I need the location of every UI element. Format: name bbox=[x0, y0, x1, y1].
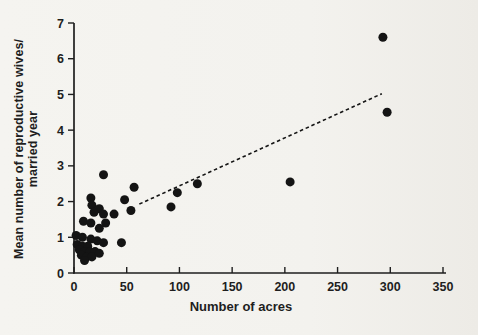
data-point bbox=[193, 179, 202, 188]
data-point bbox=[120, 195, 129, 204]
x-tick-label: 350 bbox=[433, 280, 454, 294]
y-tick-label: 5 bbox=[57, 88, 64, 102]
data-point bbox=[90, 208, 99, 217]
y-tick-label: 6 bbox=[57, 52, 64, 66]
trend-line bbox=[139, 94, 381, 204]
data-point bbox=[86, 219, 95, 228]
y-tick-label: 7 bbox=[57, 17, 64, 31]
x-tick-label: 0 bbox=[71, 280, 78, 294]
data-point bbox=[99, 238, 108, 247]
data-point bbox=[173, 188, 182, 197]
data-point bbox=[117, 238, 126, 247]
y-tick-label: 0 bbox=[57, 267, 64, 281]
y-tick-label: 4 bbox=[57, 124, 64, 138]
data-point bbox=[99, 170, 108, 179]
x-tick-label: 250 bbox=[327, 280, 348, 294]
data-point bbox=[95, 224, 104, 233]
x-tick-label: 50 bbox=[120, 280, 134, 294]
x-tick-label: 100 bbox=[169, 280, 190, 294]
data-point bbox=[110, 210, 119, 219]
scatter-chart: Mean number of reproductive wives/ marri… bbox=[0, 0, 478, 335]
data-point bbox=[126, 206, 135, 215]
y-tick-label: 1 bbox=[57, 231, 64, 245]
y-tick-label: 3 bbox=[57, 159, 64, 173]
x-tick-label: 200 bbox=[274, 280, 295, 294]
data-point bbox=[80, 256, 89, 265]
data-point bbox=[78, 233, 87, 242]
y-tick-label: 2 bbox=[57, 195, 64, 209]
plot-area: 05010015020025030035001234567 bbox=[0, 0, 478, 335]
data-point bbox=[166, 202, 175, 211]
x-axis-title: Number of acres bbox=[75, 299, 407, 314]
data-point bbox=[130, 183, 139, 192]
data-point bbox=[383, 108, 392, 117]
data-point bbox=[286, 177, 295, 186]
data-point bbox=[99, 210, 108, 219]
x-tick-label: 300 bbox=[380, 280, 401, 294]
data-point bbox=[378, 33, 387, 42]
x-tick-label: 150 bbox=[222, 280, 243, 294]
data-point bbox=[95, 249, 104, 258]
